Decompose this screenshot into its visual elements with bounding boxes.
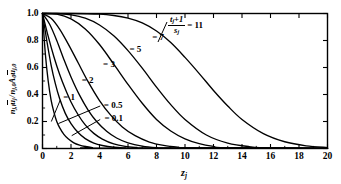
x-tick-label: 8 (154, 152, 159, 162)
curve-label-1: = 1 (63, 92, 75, 101)
x-axis-label: zj (181, 168, 187, 180)
y-tick-label: 0 (0, 144, 39, 154)
curve-label-5: = 5 (129, 45, 141, 54)
annotation-value: = 11 (187, 21, 203, 30)
x-tick-label: 14 (237, 152, 247, 162)
curve-label-0.5: = 0.5 (104, 100, 123, 109)
x-tick-label: 10 (180, 152, 190, 162)
x-tick-label: 0 (40, 152, 45, 162)
annotation-fraction: tj+1 sj (168, 15, 185, 35)
annotation-formula: tj+1 sj = 11 (168, 15, 203, 35)
leader-0-5 (58, 106, 100, 124)
figure-container: nj,luj / nj,0A0uj,0 zj tj+1 sj = 11 0246… (0, 0, 341, 184)
curve-label-0.1: = 0.1 (104, 114, 123, 123)
x-tick-label: 16 (266, 152, 276, 162)
x-tick-label: 4 (97, 152, 102, 162)
leader-0-1 (72, 119, 101, 135)
x-tick-label: 20 (323, 152, 333, 162)
x-tick-label: 12 (209, 152, 219, 162)
annotation-denominator: sj (172, 26, 181, 36)
y-tick-label: 0.4 (0, 90, 39, 100)
curve-label-7: = 7 (152, 33, 164, 42)
y-tick-label: 0.2 (0, 117, 39, 127)
y-tick-label: 0.6 (0, 63, 39, 73)
curve-label-2: = 2 (82, 76, 94, 85)
x-tick-label: 2 (69, 152, 74, 162)
annotation-numerator: tj+1 (168, 15, 185, 25)
curve-label-3: = 3 (103, 60, 115, 69)
x-tick-label: 18 (294, 152, 304, 162)
y-tick-label: 1.0 (0, 9, 39, 19)
y-tick-label: 0.8 (0, 36, 39, 46)
x-tick-label: 6 (126, 152, 131, 162)
